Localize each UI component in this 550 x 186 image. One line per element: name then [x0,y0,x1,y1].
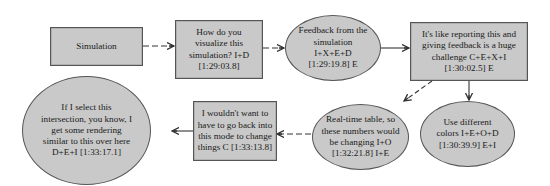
node-visualize-question: How do you visualize this simulation? I+… [175,20,263,79]
flow-diagram: Simulation How do you visualize this sim… [0,0,550,186]
node-label: How do you visualize this simulation? I+… [176,27,262,72]
node-simulation: Simulation [50,27,143,66]
node-reporting-challenge: It's like reporting this and giving feed… [410,22,528,81]
node-label: If I select this intersection, you know,… [23,102,150,158]
node-select-intersection: If I select this intersection, you know,… [22,76,151,185]
node-label: Simulation [73,41,119,52]
node-label: Real-time table, so these numbers would … [313,114,408,159]
node-different-colors: Use different colors I+E+O+D [1:30:39.9]… [420,101,515,167]
node-feedback-simulation: Feedback from the simulation I+X+E+D [1:… [285,15,381,81]
node-label: Feedback from the simulation I+X+E+D [1:… [286,25,380,70]
edge-n4-n6 [404,81,432,101]
node-go-back-mode: I wouldn't want to have to go back into … [193,101,277,161]
node-label: Use different colors I+E+O+D [1:30:39.9]… [421,117,514,151]
node-label: It's like reporting this and giving feed… [411,29,527,74]
node-label: I wouldn't want to have to go back into … [194,108,276,153]
node-realtime-table: Real-time table, so these numbers would … [312,104,409,170]
